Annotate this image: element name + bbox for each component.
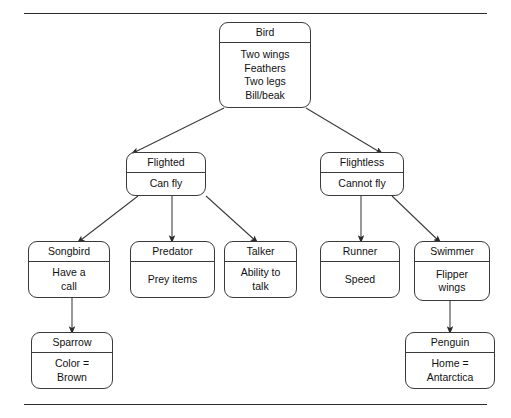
node-predator[interactable]: Predator Prey items [130,241,215,298]
node-talker-attr-1: talk [241,280,281,293]
node-songbird-attributes: Have a call [29,262,109,297]
node-sparrow[interactable]: Sparrow Color = Brown [31,332,113,389]
node-runner-attr-0: Speed [345,273,375,286]
node-runner-title: Runner [321,242,399,262]
node-songbird-attr-0: Have a [52,266,85,279]
node-predator-attributes: Prey items [131,262,214,297]
node-sparrow-attr-0: Color = [55,357,89,370]
node-penguin-title: Penguin [406,333,494,353]
node-penguin-attributes: Home = Antarctica [406,353,494,388]
node-bird-attr-3: Bill/beak [240,89,289,102]
node-flightless-attr-0: Cannot fly [338,177,385,190]
node-sparrow-attributes: Color = Brown [32,353,112,388]
node-bird-attributes: Two wings Feathers Two legs Bill/beak [220,43,310,107]
node-flightless-title: Flightless [321,153,403,173]
node-flightless-attributes: Cannot fly [321,173,403,195]
node-penguin[interactable]: Penguin Home = Antarctica [405,332,495,389]
node-penguin-attr-1: Antarctica [427,371,474,384]
node-flightless[interactable]: Flightless Cannot fly [320,152,404,196]
node-swimmer-attributes: Flipper wings [415,262,489,300]
node-runner[interactable]: Runner Speed [320,241,400,298]
node-bird-attr-2: Two legs [240,75,289,88]
node-songbird-attr-1: call [52,280,85,293]
node-flighted-attr-0: Can fly [150,177,183,190]
node-sparrow-attr-1: Brown [55,371,89,384]
node-talker-attr-0: Ability to [241,266,281,279]
edge-bird-flighted [131,108,224,154]
edge-flighted-songbird [77,196,138,243]
node-flighted-attributes: Can fly [127,173,205,195]
node-bird-title: Bird [220,23,310,43]
edge-flightless-swimmer [392,196,441,243]
node-flighted-title: Flighted [127,153,205,173]
node-talker-title: Talker [225,242,296,262]
diagram-canvas: Bird Two wings Feathers Two legs Bill/be… [0,0,511,418]
node-predator-attr-0: Prey items [148,273,198,286]
node-sparrow-title: Sparrow [32,333,112,353]
node-flighted[interactable]: Flighted Can fly [126,152,206,196]
node-runner-attributes: Speed [321,262,399,297]
node-swimmer-attr-0: Flipper [436,268,468,281]
node-penguin-attr-0: Home = [427,357,474,370]
node-swimmer[interactable]: Swimmer Flipper wings [414,241,490,301]
node-songbird[interactable]: Songbird Have a call [28,241,110,298]
edge-flighted-talker [206,196,258,243]
node-swimmer-attr-1: wings [436,281,468,294]
node-swimmer-title: Swimmer [415,242,489,262]
edge-bird-flightless [306,108,383,154]
node-songbird-title: Songbird [29,242,109,262]
node-bird-attr-1: Feathers [240,62,289,75]
node-talker-attributes: Ability to talk [225,262,296,297]
node-bird[interactable]: Bird Two wings Feathers Two legs Bill/be… [219,22,311,108]
node-predator-title: Predator [131,242,214,262]
node-bird-attr-0: Two wings [240,48,289,61]
node-talker[interactable]: Talker Ability to talk [224,241,297,298]
